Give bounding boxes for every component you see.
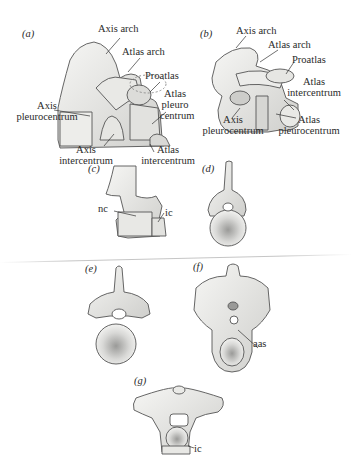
panel-c-tag: (c) <box>88 163 100 174</box>
label-ic-g: ic <box>194 443 202 454</box>
panel-e-drawing <box>88 266 150 364</box>
label-line: centrum <box>160 110 190 121</box>
label-axis-intercentrum-a: Axis intercentrum <box>54 144 118 166</box>
label-proatlas-a: Proatlas <box>145 70 179 81</box>
panel-f-tag: (f) <box>193 261 203 272</box>
label-line: intercentrum <box>54 155 118 166</box>
label-atlas-intercentrum-b: Atlas intercentrum <box>282 76 346 98</box>
label-atlas-pleurocentrum-b: Atlas pleurocentrum <box>274 114 344 136</box>
label-proatlas-b: Proatlas <box>292 54 326 65</box>
label-ic-c: ic <box>165 207 173 218</box>
label-line: Axis <box>12 100 82 111</box>
label-line: Axis <box>198 114 268 125</box>
label-atlas-pleurocentrum-a: Atlas pleuro centrum <box>160 88 190 121</box>
label-line: Axis <box>54 144 118 155</box>
label-axis-arch-b: Axis arch <box>236 25 277 36</box>
label-line: Atlas <box>274 114 344 125</box>
panel-a-drawing <box>58 42 170 148</box>
label-line: intercentrum <box>282 87 346 98</box>
panel-f-drawing <box>194 264 270 372</box>
label-atlas-arch-a: Atlas arch <box>122 46 165 57</box>
label-line: pleurocentrum <box>274 125 344 136</box>
label-nc: nc <box>98 203 108 214</box>
label-line: pleurocentrum <box>12 111 82 122</box>
label-line: pleuro <box>160 99 190 110</box>
panel-b-tag: (b) <box>200 28 212 39</box>
label-line: Atlas <box>282 76 346 87</box>
label-line: intercentrum <box>136 155 200 166</box>
label-line: pleurocentrum <box>198 125 268 136</box>
panel-g-drawing <box>133 386 223 454</box>
label-axis-arch-a: Axis arch <box>98 23 139 34</box>
label-axis-pleurocentrum-a: Axis pleurocentrum <box>12 100 82 122</box>
panel-g-tag: (g) <box>134 375 146 386</box>
label-atlas-arch-b: Atlas arch <box>268 39 311 50</box>
label-line: Atlas <box>136 144 200 155</box>
panel-a-tag: (a) <box>22 28 34 39</box>
label-atlas-intercentrum-a: Atlas intercentrum <box>136 144 200 166</box>
panel-c-drawing <box>106 166 166 238</box>
label-line: Atlas <box>160 88 190 99</box>
panel-e-tag: (e) <box>85 263 97 274</box>
panel-d-tag: (d) <box>202 163 214 174</box>
label-axis-pleurocentrum-b: Axis pleurocentrum <box>198 114 268 136</box>
label-aas: aas <box>253 338 266 349</box>
